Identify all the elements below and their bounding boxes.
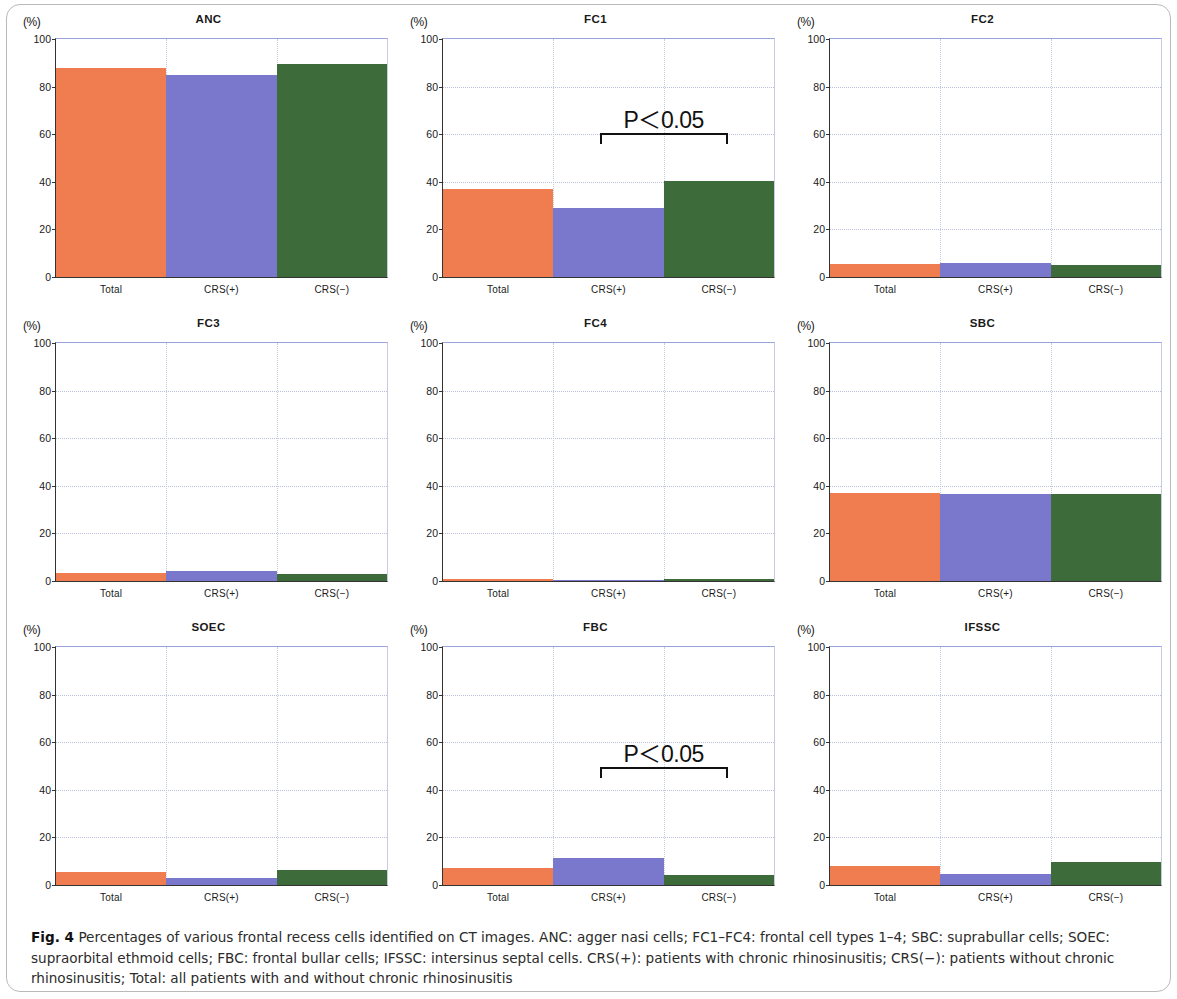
y-axis-tick-label: 20 — [813, 831, 825, 843]
y-axis-tick-label: 60 — [39, 736, 51, 748]
plot-area: 100806040200TotalCRS(+)CRS(−) — [55, 342, 388, 582]
y-axis-tick-label: 60 — [426, 128, 438, 140]
figure-caption-text: Percentages of various frontal recess ce… — [31, 929, 1114, 986]
y-axis-tick-label: 40 — [39, 784, 51, 796]
bar-series: TotalCRS(+)CRS(−) — [830, 647, 1161, 885]
y-axis-tick-label: 100 — [420, 641, 438, 653]
y-axis-tick-label: 20 — [813, 527, 825, 539]
plot-area: 100806040200TotalCRS(+)CRS(−) — [55, 38, 388, 278]
bar-slot: CRS(−) — [1051, 647, 1161, 885]
x-axis-tick-label: Total — [830, 892, 940, 903]
y-axis-tick-label: 100 — [807, 641, 825, 653]
y-axis-tick-mark — [826, 885, 830, 886]
bar-slot: CRS(+) — [166, 39, 276, 277]
bar-total — [830, 866, 940, 885]
y-axis-tick-label: 40 — [813, 784, 825, 796]
bar-crs-negative — [277, 574, 387, 581]
bar-slot: CRS(−) — [1051, 39, 1161, 277]
x-axis-tick-label: CRS(+) — [166, 284, 276, 295]
x-axis-tick-label: Total — [56, 588, 166, 599]
x-axis-tick-label: CRS(−) — [277, 284, 387, 295]
y-axis-tick-label: 0 — [45, 879, 51, 891]
bar-total — [830, 493, 940, 581]
y-axis-tick-label: 40 — [813, 480, 825, 492]
y-axis-tick-label: 100 — [33, 33, 51, 45]
bar-slot: Total — [830, 39, 940, 277]
x-axis-tick-label: CRS(−) — [1051, 284, 1161, 295]
y-axis-tick-label: 80 — [39, 385, 51, 397]
x-axis-tick-label: CRS(+) — [166, 892, 276, 903]
y-axis-tick-label: 100 — [33, 641, 51, 653]
chart-title: FBC — [402, 621, 789, 633]
x-axis-tick-label: Total — [56, 892, 166, 903]
bar-series: TotalCRS(+)CRS(−) — [56, 647, 387, 885]
x-axis-tick-label: CRS(+) — [166, 588, 276, 599]
figure-number: Fig. 4 — [31, 929, 74, 945]
y-axis-tick-label: 0 — [432, 879, 438, 891]
y-axis-tick-mark — [826, 581, 830, 582]
y-axis-tick-label: 0 — [819, 575, 825, 587]
bar-slot: Total — [443, 343, 553, 581]
y-axis-tick-label: 80 — [813, 689, 825, 701]
bar-slot: CRS(+) — [553, 647, 663, 885]
bar-series: TotalCRS(+)CRS(−) — [56, 39, 387, 277]
y-axis-tick-label: 60 — [813, 736, 825, 748]
bar-crs-negative — [277, 64, 387, 277]
x-axis-tick-label: Total — [443, 284, 553, 295]
y-axis-tick-mark — [439, 581, 443, 582]
bar-crs-negative — [1051, 265, 1161, 277]
bar-crs-positive — [166, 75, 276, 277]
bar-slot: CRS(−) — [664, 39, 774, 277]
bar-slot: CRS(+) — [940, 647, 1050, 885]
bar-slot: Total — [56, 39, 166, 277]
bar-crs-negative — [664, 181, 774, 277]
bar-total — [443, 189, 553, 277]
bar-crs-negative — [277, 870, 387, 885]
plot-area: 100806040200TotalCRS(+)CRS(−)P＜0.05 — [442, 646, 775, 886]
y-axis-tick-label: 40 — [426, 176, 438, 188]
y-axis-tick-label: 20 — [39, 527, 51, 539]
y-axis-tick-label: 20 — [426, 527, 438, 539]
plot-area: 100806040200TotalCRS(+)CRS(−)P＜0.05 — [442, 38, 775, 278]
y-axis-tick-label: 80 — [426, 81, 438, 93]
bar-slot: CRS(−) — [664, 343, 774, 581]
chart-title: ANC — [15, 13, 402, 25]
bar-slot: CRS(+) — [553, 39, 663, 277]
x-axis-tick-label: CRS(−) — [664, 892, 774, 903]
y-axis-tick-label: 60 — [39, 432, 51, 444]
chart-title: FC1 — [402, 13, 789, 25]
y-axis-tick-label: 100 — [420, 33, 438, 45]
chart-panel-ifssc: (%)IFSSC100806040200TotalCRS(+)CRS(−) — [789, 619, 1176, 923]
y-axis-tick-label: 60 — [813, 128, 825, 140]
bar-slot: CRS(−) — [664, 647, 774, 885]
plot-area: 100806040200TotalCRS(+)CRS(−) — [442, 342, 775, 582]
y-axis-tick-label: 100 — [33, 337, 51, 349]
chart-panel-fc4: (%)FC4100806040200TotalCRS(+)CRS(−) — [402, 315, 789, 619]
x-axis-tick-label: CRS(+) — [553, 588, 663, 599]
bar-crs-positive — [166, 878, 276, 885]
bar-series: TotalCRS(+)CRS(−) — [443, 647, 774, 885]
y-axis-tick-label: 0 — [432, 575, 438, 587]
bar-slot: Total — [830, 343, 940, 581]
plot-area: 100806040200TotalCRS(+)CRS(−) — [55, 646, 388, 886]
chart-panel-fc3: (%)FC3100806040200TotalCRS(+)CRS(−) — [15, 315, 402, 619]
x-axis-tick-label: Total — [443, 892, 553, 903]
plot-area: 100806040200TotalCRS(+)CRS(−) — [829, 38, 1162, 278]
chart-title: SBC — [789, 317, 1176, 329]
y-axis-tick-label: 80 — [813, 81, 825, 93]
bar-crs-positive — [553, 580, 663, 581]
y-axis-tick-label: 100 — [420, 337, 438, 349]
x-axis-tick-label: CRS(+) — [940, 284, 1050, 295]
bar-crs-positive — [940, 494, 1050, 581]
bar-slot: Total — [830, 647, 940, 885]
chart-panel-grid: (%)ANC100806040200TotalCRS(+)CRS(−)(%)FC… — [15, 11, 1176, 923]
plot-area: 100806040200TotalCRS(+)CRS(−) — [829, 646, 1162, 886]
bar-slot: CRS(+) — [166, 343, 276, 581]
x-axis-tick-label: CRS(−) — [1051, 588, 1161, 599]
y-axis-tick-label: 40 — [426, 784, 438, 796]
y-axis-tick-label: 80 — [426, 385, 438, 397]
y-axis-tick-label: 60 — [426, 432, 438, 444]
chart-panel-fc2: (%)FC2100806040200TotalCRS(+)CRS(−) — [789, 11, 1176, 315]
chart-title: IFSSC — [789, 621, 1176, 633]
bar-series: TotalCRS(+)CRS(−) — [830, 39, 1161, 277]
